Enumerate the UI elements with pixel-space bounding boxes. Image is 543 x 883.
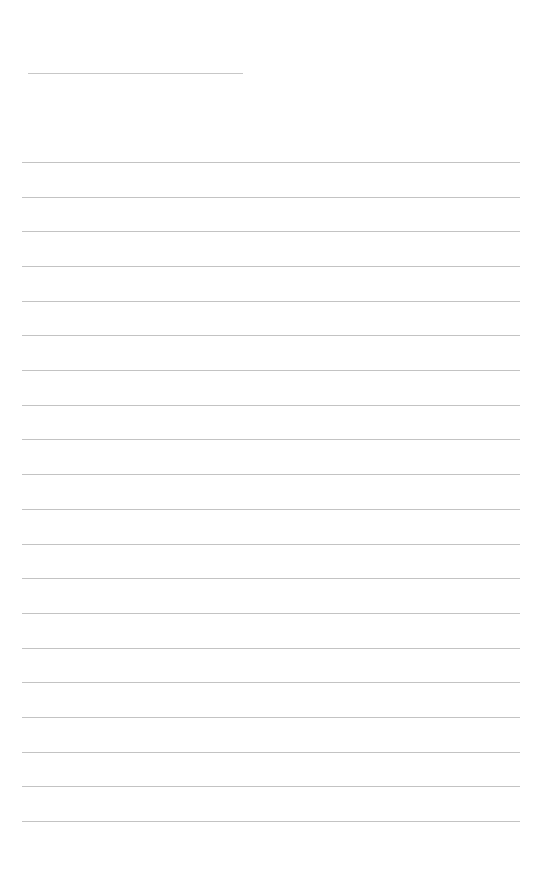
ruled-line: [22, 613, 520, 614]
ruled-line: [22, 162, 520, 163]
lined-paper-page: [0, 0, 543, 883]
ruled-lines: [0, 0, 543, 883]
ruled-line: [22, 717, 520, 718]
ruled-line: [22, 509, 520, 510]
ruled-line: [22, 474, 520, 475]
ruled-line: [22, 544, 520, 545]
ruled-line: [22, 266, 520, 267]
ruled-line: [22, 578, 520, 579]
ruled-line: [22, 301, 520, 302]
ruled-line: [22, 648, 520, 649]
ruled-line: [22, 197, 520, 198]
ruled-line: [22, 370, 520, 371]
ruled-line: [22, 231, 520, 232]
ruled-line: [22, 821, 520, 822]
ruled-line: [22, 786, 520, 787]
ruled-line: [22, 682, 520, 683]
ruled-line: [22, 405, 520, 406]
ruled-line: [22, 752, 520, 753]
ruled-line: [22, 335, 520, 336]
ruled-line: [22, 439, 520, 440]
